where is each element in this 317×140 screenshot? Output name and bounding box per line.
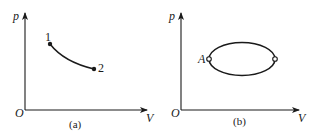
state-2-label: 2 <box>98 61 104 75</box>
point-a-marker <box>207 57 212 62</box>
caption-a: (a) <box>69 118 82 131</box>
panel-b: p O V A (b) <box>168 9 307 128</box>
y-axis-label-a: p <box>12 9 19 23</box>
figure: p O V 1 2 (a) p O V A (b) <box>0 0 317 140</box>
panel-a: p O V 1 2 (a) <box>12 9 155 131</box>
process-curve <box>50 44 94 69</box>
state-1-label: 1 <box>45 30 51 44</box>
state-2-point <box>92 67 96 71</box>
cycle-ellipse <box>209 43 275 76</box>
x-axis-label-a: V <box>146 111 155 125</box>
caption-b: (b) <box>233 115 246 128</box>
y-axis-label-b: p <box>168 9 175 23</box>
x-axis-label-b: V <box>298 111 307 125</box>
origin-label-b: O <box>171 106 180 120</box>
point-a-label: A <box>197 52 206 66</box>
point-right-marker <box>273 57 278 62</box>
origin-label-a: O <box>15 106 24 120</box>
